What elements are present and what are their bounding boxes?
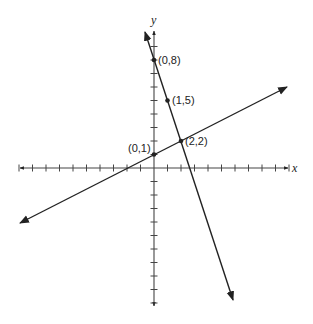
y-axis-label: y	[150, 13, 157, 27]
point-1-5	[165, 98, 170, 103]
point-0-1	[152, 152, 157, 157]
coordinate-graph: x y (0,8) (1,5) (0,1) (2,2)	[0, 0, 313, 324]
steep-line	[145, 32, 233, 300]
point-label-0-8: (0,8)	[158, 54, 181, 66]
point-label-1-5: (1,5)	[172, 94, 195, 106]
point-2-2	[179, 139, 184, 144]
point-0-8	[152, 58, 157, 63]
point-label-2-2: (2,2)	[185, 135, 208, 147]
point-label-0-1: (0,1)	[128, 142, 151, 154]
x-axis-label: x	[291, 161, 298, 175]
